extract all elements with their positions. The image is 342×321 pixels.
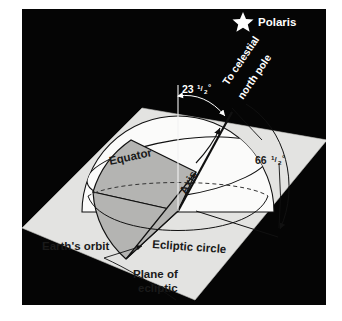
astronomy-diagram: Polaris To celestial north pole 23 1 / 2… <box>0 0 342 321</box>
pole-angle-degree-symbol: ° <box>282 154 285 163</box>
figure-root: Polaris To celestial north pole 23 1 / 2… <box>0 0 342 321</box>
label-plane-of-ecliptic-line2: ecliptic <box>138 282 178 294</box>
axis-tilt-value: 23 <box>182 83 194 95</box>
axis-tilt-degree-symbol: ° <box>208 83 211 92</box>
pole-angle-value: 66 <box>255 154 267 166</box>
label-plane-of-ecliptic-line1: Plane of <box>133 268 178 280</box>
label-polaris: Polaris <box>258 16 296 28</box>
label-earths-orbit: Earth's orbit <box>42 240 109 252</box>
